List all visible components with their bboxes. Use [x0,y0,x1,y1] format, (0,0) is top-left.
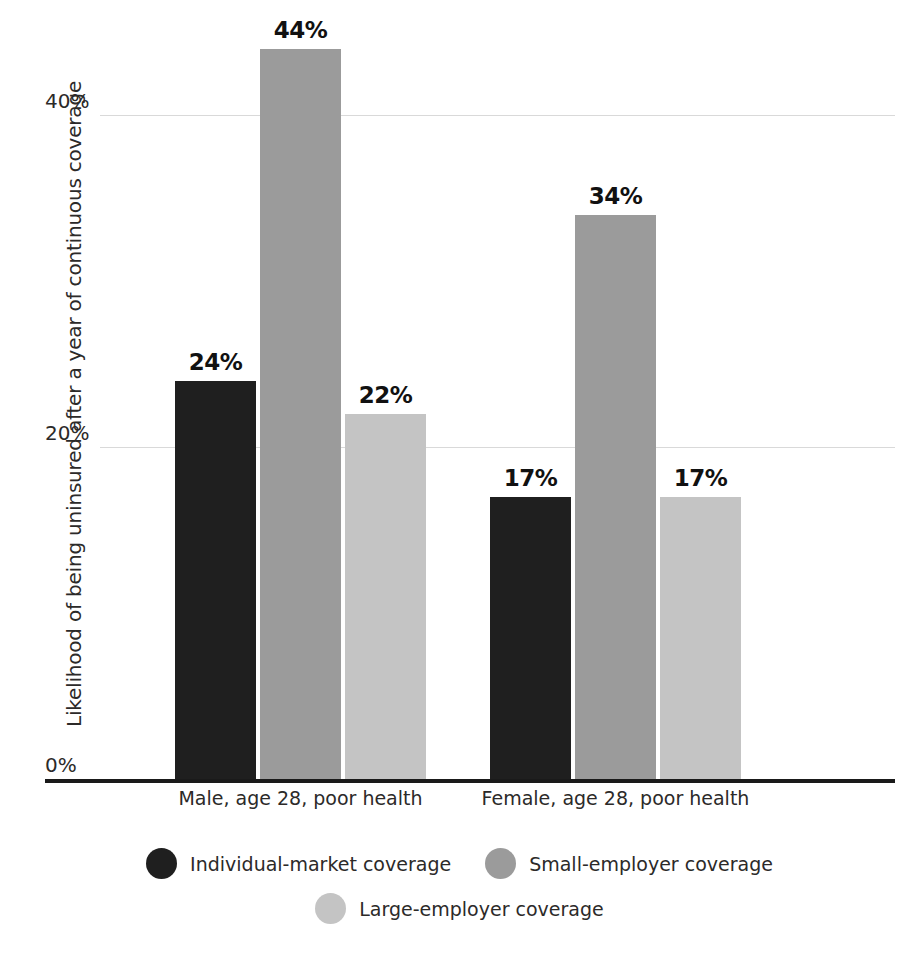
bar[interactable] [660,497,741,779]
plot-area: 40%20%0% 24%44%22%17%34%17% [45,0,895,782]
legend-item[interactable]: Individual-market coverage [146,848,451,879]
bar-value-label: 34% [563,183,668,209]
top-crop-artifact [0,0,919,8]
legend-label: Large-employer coverage [359,898,603,920]
legend-swatch-circle-icon [485,848,516,879]
legend-item[interactable]: Large-employer coverage [315,893,603,924]
y-tick-label: 0% [45,753,97,777]
bar[interactable] [490,497,571,779]
y-tick-label: 20% [45,421,97,445]
bar-chart: Likelihood of being uninsured after a ye… [0,0,919,968]
legend-swatch-circle-icon [146,848,177,879]
legend: Individual-market coverageSmall-employer… [0,848,919,938]
bar[interactable] [175,381,256,779]
bar[interactable] [575,215,656,779]
legend-item[interactable]: Small-employer coverage [485,848,773,879]
bar[interactable] [345,414,426,779]
bar[interactable] [260,49,341,779]
legend-label: Small-employer coverage [529,853,773,875]
bar-value-label: 24% [163,349,268,375]
y-tick-label: 40% [45,89,97,113]
bar-value-label: 17% [478,465,583,491]
gridline-40 [100,115,895,116]
legend-row: Individual-market coverageSmall-employer… [0,848,919,879]
category-label: Female, age 28, poor health [430,787,801,809]
x-axis-line [45,779,895,783]
legend-label: Individual-market coverage [190,853,451,875]
bar-value-label: 17% [648,465,753,491]
legend-swatch-circle-icon [315,893,346,924]
bar-value-label: 22% [333,382,438,408]
legend-row: Large-employer coverage [0,893,919,924]
bar-value-label: 44% [248,17,353,43]
